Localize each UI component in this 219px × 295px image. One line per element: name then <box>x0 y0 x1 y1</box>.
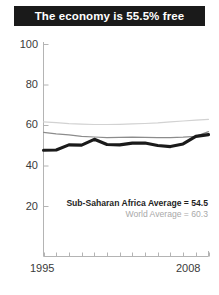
plot-svg <box>0 0 219 295</box>
x-tick-label-start: 1995 <box>30 262 54 274</box>
chart-legend: Sub-Saharan Africa Average = 54.5 World … <box>60 198 208 220</box>
chart-container: The economy is 55.5% free 100 80 60 40 2… <box>0 0 219 295</box>
legend-item-region-average: Sub-Saharan Africa Average = 54.5 <box>60 198 208 209</box>
series-line-region-average <box>44 132 209 138</box>
x-axis-ticks <box>45 253 210 257</box>
legend-item-world-average: World Average = 60.3 <box>60 209 208 220</box>
series-line-world-average <box>44 119 209 124</box>
y-axis-ticks <box>44 45 49 207</box>
x-tick-label-end: 2008 <box>176 262 200 274</box>
